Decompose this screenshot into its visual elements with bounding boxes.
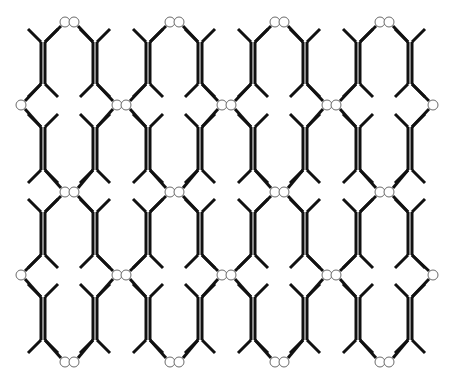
bond-arm — [80, 255, 93, 268]
bond-arm — [412, 199, 425, 212]
bond-arm — [307, 340, 320, 353]
bond-arm — [80, 84, 93, 97]
connector-arm — [25, 255, 41, 271]
connector-arm — [393, 170, 408, 188]
connector-arm — [150, 170, 166, 188]
bond-arm — [97, 199, 110, 212]
bond-arm — [360, 255, 373, 268]
bond-arm — [97, 29, 110, 42]
connector-arm — [45, 26, 61, 42]
bond-arm — [255, 284, 268, 297]
node-pair-right — [331, 270, 341, 280]
connector-arm — [183, 196, 198, 212]
connector-arm — [288, 170, 303, 188]
node-pair-right — [69, 17, 79, 27]
bond-arm — [255, 84, 268, 97]
node-layer — [16, 17, 438, 367]
connector-arm — [97, 279, 113, 297]
bond-arm — [395, 284, 408, 297]
connector-arm — [97, 84, 113, 101]
connector-arm — [202, 84, 218, 101]
connector-arm — [235, 84, 251, 101]
connector-arm — [412, 84, 429, 101]
node-edge — [16, 270, 26, 280]
bond-arm — [97, 340, 110, 353]
connector-arm — [183, 170, 198, 188]
node-edge — [428, 270, 438, 280]
connector-arm — [412, 109, 429, 127]
bond-arm — [185, 284, 198, 297]
bond-arm — [28, 170, 41, 183]
bond-arm — [97, 170, 110, 183]
bond-arm — [150, 255, 163, 268]
connector-arm — [183, 26, 198, 42]
connector-arm — [25, 279, 41, 297]
connector-arm — [130, 255, 146, 271]
node-edge — [16, 100, 26, 110]
bond-arm — [238, 340, 251, 353]
connector-arm — [235, 255, 251, 271]
connector-arm — [340, 84, 356, 101]
node-edge — [428, 100, 438, 110]
bond-arm — [202, 29, 215, 42]
bond-arm — [185, 114, 198, 127]
connector-arm — [202, 255, 218, 271]
node-pair-right — [69, 187, 79, 197]
connector-arm — [340, 255, 356, 271]
node-pair-right — [384, 187, 394, 197]
node-pair-right — [69, 357, 79, 367]
bond-arm — [290, 84, 303, 97]
connector-arm — [45, 170, 61, 188]
connector-arm — [45, 340, 61, 358]
bond-arm — [45, 255, 58, 268]
figure-caption — [0, 376, 453, 384]
node-pair-right — [174, 187, 184, 197]
node-pair-right — [174, 17, 184, 27]
bond-arm — [150, 284, 163, 297]
bond-arm — [150, 84, 163, 97]
bond-arm — [45, 114, 58, 127]
connector-arm — [412, 279, 429, 297]
bond-arm — [238, 29, 251, 42]
connector-arm — [307, 84, 323, 101]
bond-arm — [133, 170, 146, 183]
bond-arm — [307, 199, 320, 212]
bond-arm — [80, 284, 93, 297]
connector-arm — [130, 279, 146, 297]
bond-arm — [150, 114, 163, 127]
connector-arm — [393, 196, 408, 212]
connector-arm — [307, 279, 323, 297]
connector-arm — [307, 109, 323, 127]
bond-arm — [395, 84, 408, 97]
connector-arm — [340, 109, 356, 127]
connector-arm — [183, 340, 198, 358]
connector-arm — [360, 196, 376, 212]
connector-arm — [255, 26, 271, 42]
connector-arm — [288, 196, 303, 212]
connector-arm — [150, 196, 166, 212]
bond-arm — [395, 255, 408, 268]
connector-arm — [45, 196, 61, 212]
connector-arm — [360, 340, 376, 358]
connector-arm — [130, 84, 146, 101]
bond-arm — [307, 170, 320, 183]
connector-arm — [78, 26, 93, 42]
connector-arm — [25, 109, 41, 127]
bond-arm — [28, 199, 41, 212]
bond-arm — [343, 29, 356, 42]
connector-arm — [412, 255, 429, 271]
connector-arm — [25, 84, 41, 101]
bond-arm — [45, 84, 58, 97]
bond-arm — [255, 114, 268, 127]
connector-arm — [393, 340, 408, 358]
connector-arm — [288, 26, 303, 42]
connector-arm — [78, 170, 93, 188]
bond-arm — [202, 340, 215, 353]
connector-arm — [255, 170, 271, 188]
bond-arm — [185, 255, 198, 268]
bond-arm — [202, 170, 215, 183]
connector-arm — [393, 26, 408, 42]
connector-arm — [97, 255, 113, 271]
bond-layer — [25, 26, 429, 358]
node-pair-right — [121, 100, 131, 110]
